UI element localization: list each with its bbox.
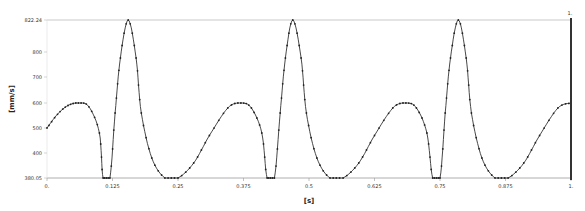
data-point-marker [110,165,112,167]
data-point-marker [418,112,420,114]
data-point-marker [478,148,480,150]
data-point-marker [450,57,452,59]
data-point-marker [268,177,270,179]
data-point-marker [157,170,159,172]
data-point-marker [123,32,125,34]
data-point-marker [342,177,344,179]
data-point-marker [101,156,103,158]
data-point-marker [85,103,87,105]
data-point-marker [118,69,120,71]
data-point-marker [62,108,64,110]
data-point-marker [283,69,285,71]
data-point-marker [223,112,225,114]
data-point-marker [568,103,570,105]
data-point-marker [151,157,153,159]
data-point-marker [434,177,436,179]
data-point-marker [78,102,80,104]
data-point-marker [298,45,300,47]
data-point-marker [561,104,563,106]
data-point-marker [145,137,147,139]
data-point-marker [501,177,503,179]
data-point-marker [100,143,102,145]
data-point-marker [251,107,253,109]
data-point-marker [193,162,195,164]
data-point-marker [437,177,439,179]
data-point-marker [112,148,114,150]
data-point-marker [428,143,430,145]
data-point-marker [290,23,292,25]
data-point-marker [460,23,462,25]
data-point-marker [94,116,96,118]
cursor-label: 1. [568,10,573,16]
data-point-markers [46,19,572,179]
data-point-marker [264,156,266,158]
data-point-marker [362,156,364,158]
data-point-marker [143,125,145,127]
data-point-marker [383,119,385,121]
data-point-marker [104,177,106,179]
data-point-marker [174,177,176,179]
y-tick-label: 822.24 [25,17,43,23]
data-point-marker [137,70,139,72]
data-point-marker [48,125,50,127]
data-point-marker [154,164,156,166]
data-point-marker [469,99,471,101]
data-point-marker [177,177,179,179]
data-point-marker [413,104,415,106]
data-point-marker [303,84,305,86]
data-point-marker [484,164,486,166]
data-point-marker [310,137,312,139]
data-point-marker [91,110,93,112]
data-point-marker [515,171,517,173]
data-point-marker [83,102,85,104]
data-point-marker [120,57,122,59]
data-point-marker [457,19,459,21]
data-point-marker [135,57,137,59]
data-point-marker [129,23,131,25]
data-point-marker [167,177,169,179]
data-point-marker [218,119,220,121]
data-point-marker [439,177,441,179]
x-tick-label: 0.875 [498,183,512,189]
x-tick-label: 0.625 [367,183,381,189]
data-point-marker [181,175,183,177]
data-point-marker [410,103,412,105]
data-point-marker [539,135,541,137]
x-tick-label: 0.375 [236,183,250,189]
data-point-marker [306,112,308,114]
data-point-marker [399,103,401,105]
x-tick-label: 1. [569,183,574,189]
data-point-marker [54,117,56,119]
data-point-marker [475,137,477,139]
data-point-marker [231,104,233,106]
data-point-marker [121,45,123,47]
data-point-marker [138,84,140,86]
data-point-marker [421,117,423,119]
y-tick-label: 400 [32,150,42,156]
data-point-marker [507,177,509,179]
data-point-marker [64,106,66,108]
data-point-marker [114,112,116,114]
data-point-marker [209,135,211,137]
data-point-marker [288,32,290,34]
data-point-marker [405,102,407,104]
data-point-marker [46,127,48,129]
data-point-marker [374,135,376,137]
data-point-marker [213,127,215,129]
data-point-marker [294,23,296,25]
data-point-marker [430,169,432,171]
data-point-marker [553,112,555,114]
data-point-marker [473,125,475,127]
data-point-marker [441,165,443,167]
data-point-marker [426,132,428,134]
data-point-marker [277,148,279,150]
x-tick-label: 0.5 [305,183,313,189]
data-point-marker [455,23,457,25]
x-tick-label: 0.125 [105,183,119,189]
data-point-marker [253,112,255,114]
data-point-marker [504,177,506,179]
data-point-marker [442,148,444,150]
data-point-marker [96,124,98,126]
data-point-marker [535,142,537,144]
data-point-marker [197,156,199,158]
